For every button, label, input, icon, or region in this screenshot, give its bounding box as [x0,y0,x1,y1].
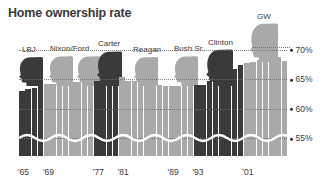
y-axis-tick: 60% [290,103,313,114]
plot-area [19,44,287,156]
y-axis-tick-label: 70% [296,45,313,55]
bar [238,65,244,156]
x-axis-tick-label: '77 [93,167,104,177]
bar [194,85,200,156]
x-axis-tick-label: '01 [242,167,253,177]
bar [257,60,263,156]
y-axis-tick-label: 55% [296,134,313,144]
tick-dot [290,108,293,111]
chart-container: Home ownership rate LBJNixon/FordCarterR… [0,0,326,184]
y-axis-tick-label: 60% [296,104,313,114]
tick-dot [290,137,293,140]
bar [275,57,281,156]
bar [207,81,213,156]
bar [107,76,113,156]
bar [219,75,225,156]
tick-dot [290,49,293,52]
bar [144,86,150,156]
bar [88,81,94,156]
y-axis-tick-label: 65% [296,75,313,85]
bar [19,91,25,156]
bar [175,86,181,156]
bar [125,81,131,156]
bar [63,83,69,156]
x-axis-tick-label: '93 [193,167,204,177]
bar [32,88,38,156]
bar [188,85,194,156]
bar [269,56,275,156]
x-axis-tick-label: '81 [118,167,129,177]
bar [169,86,175,156]
chart-title: Home ownership rate [8,6,131,20]
x-axis-tick-label: '89 [168,167,179,177]
bar [44,84,50,157]
bar [100,79,106,156]
y-axis-tick: 70% [290,45,313,56]
bar [263,56,269,156]
y-axis-tick: 55% [290,133,313,144]
bar [57,84,63,156]
x-axis-tick-label: '69 [43,167,54,177]
bar [113,76,119,156]
bar [232,69,238,156]
bar [157,85,163,156]
bar [119,77,125,156]
callout-leader-line [252,47,290,49]
bar [25,89,31,156]
bar [94,81,100,156]
bar [213,77,219,156]
bar [82,82,88,156]
bar [182,85,188,156]
bar [132,81,138,156]
bar [163,86,169,156]
bar [50,84,56,156]
president-label: GW [257,12,271,21]
bar [138,82,144,156]
bar [150,86,156,156]
bar [282,61,288,156]
bar [200,85,206,156]
bar [225,72,231,156]
bar-series [19,44,287,156]
x-axis-tick-label: '65 [18,167,29,177]
bar [69,82,75,156]
y-axis-tick: 65% [290,74,313,85]
bar [244,63,250,156]
bar [38,86,44,156]
bar [250,62,256,156]
bar [75,82,81,156]
tick-dot [290,78,293,81]
